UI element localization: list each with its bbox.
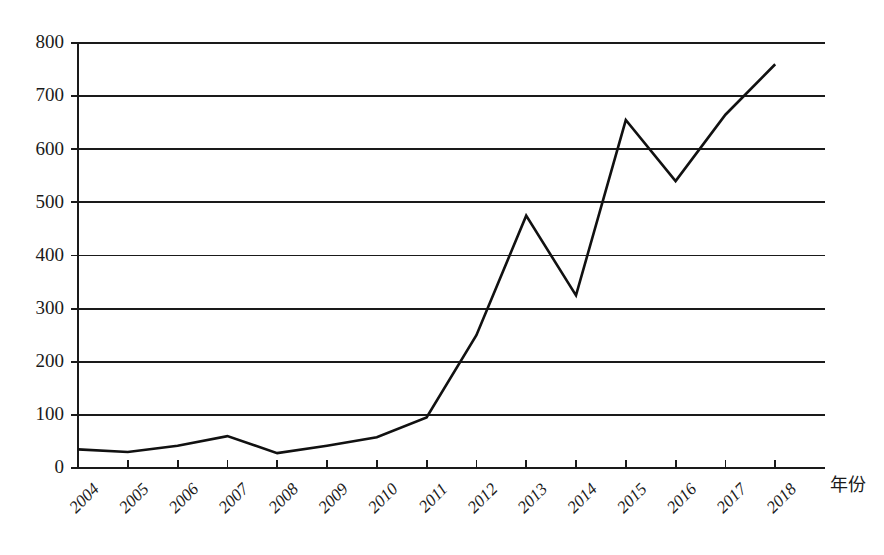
y-tick-label: 100 [36,403,65,424]
y-tick-label: 600 [36,138,65,159]
y-tick-label: 300 [36,297,65,318]
y-tick-label: 400 [36,244,65,265]
y-tick-label: 700 [36,84,65,105]
line-chart: 0100200300400500600700800 20042005200620… [0,0,884,555]
y-tick-label: 200 [36,350,65,371]
y-axis-tick-labels: 0100200300400500600700800 [36,31,65,477]
y-tick-label: 500 [36,191,65,212]
chart-canvas: 0100200300400500600700800 20042005200620… [0,0,884,555]
y-tick-label: 0 [55,456,65,477]
chart-background [0,0,884,555]
x-axis-title: 年份 [830,475,866,495]
y-tick-label: 800 [36,31,65,52]
